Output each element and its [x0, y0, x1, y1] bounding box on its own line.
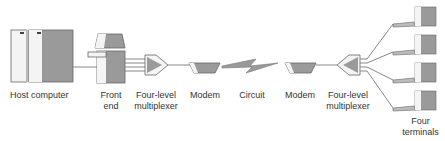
terminal-icon-1	[393, 7, 436, 27]
modem-right-icon	[285, 63, 316, 73]
terminal-icon-3	[393, 63, 436, 83]
multiplexer-right-label: Four-level multiplexer	[322, 90, 374, 112]
circuit-lightning-icon	[222, 59, 278, 73]
modem-left-label: Modem	[189, 90, 221, 101]
terminal-icon-2	[393, 35, 436, 55]
modem-left-icon	[189, 63, 220, 73]
multiplexer-left-label: Four-level multiplexer	[130, 90, 182, 112]
network-diagram	[0, 0, 445, 141]
multiplexer-left-icon	[145, 55, 168, 75]
front-end-icon	[88, 34, 125, 83]
circuit-label: Circuit	[236, 90, 268, 101]
host-computer-icon	[11, 30, 73, 82]
terminals-label: Four terminals	[398, 116, 443, 138]
front-end-label: Front end	[95, 90, 127, 112]
host-computer-label: Host computer	[10, 90, 69, 101]
multiplexer-right-icon	[337, 55, 360, 75]
modem-right-label: Modem	[284, 90, 316, 101]
terminal-icon-4	[393, 91, 436, 111]
